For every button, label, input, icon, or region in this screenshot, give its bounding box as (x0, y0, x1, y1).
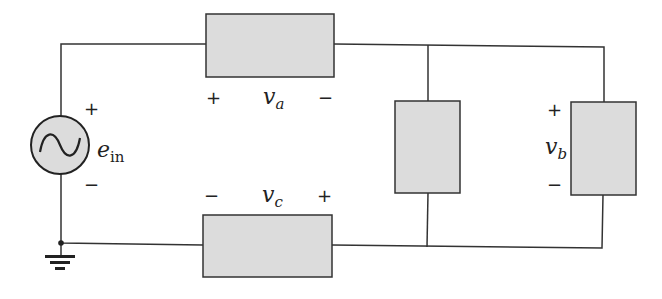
element-b (571, 102, 636, 195)
element-b-label: vb (545, 134, 567, 163)
element-c (203, 215, 332, 277)
source-label: ein (97, 137, 125, 166)
junction-dot (58, 240, 64, 246)
element-a-label: va (263, 84, 284, 113)
source-plus: + (84, 98, 99, 119)
source-minus: − (84, 174, 99, 195)
element-parallel (395, 101, 460, 193)
element-a (206, 14, 334, 77)
element-a-plus: + (206, 87, 221, 108)
element-c-label: vc (262, 182, 283, 211)
ground-icon (45, 255, 75, 270)
element-c-minus: − (204, 185, 219, 206)
circuit-diagram: + − ein + − va + − vb − + vc (0, 0, 662, 299)
element-b-minus: − (547, 174, 562, 195)
element-b-plus: + (547, 99, 562, 120)
element-c-plus: + (317, 185, 332, 206)
ac-source (31, 116, 89, 174)
element-a-minus: − (318, 87, 333, 108)
